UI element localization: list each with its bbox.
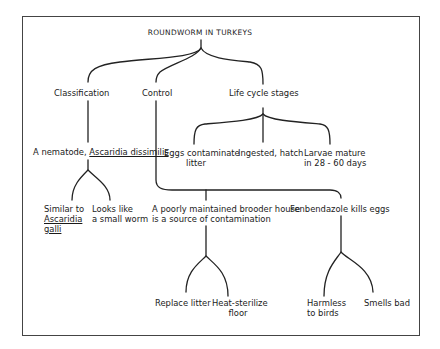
node-replace-litter: Replace litter — [155, 298, 211, 308]
node-life-cycle-stages: Life cycle stages — [229, 88, 299, 98]
heat-line2: floor — [212, 308, 264, 318]
connector-lines — [0, 0, 440, 349]
looks-line1: Looks like — [92, 204, 148, 214]
node-brooder-house: A poorly maintained brooder house is a s… — [152, 204, 300, 224]
brooder-line2: is a source of contamination — [152, 214, 300, 224]
eggs-line1: Eggs contaminate — [164, 148, 228, 158]
similar-line3: galli — [44, 224, 84, 234]
node-similar-to-galli: Similar to Ascaridia galli — [44, 204, 84, 234]
harmless-line1: Harmless — [307, 298, 346, 308]
node-control: Control — [142, 88, 172, 98]
node-fenbendazole: Fenbendazole kills eggs — [290, 204, 390, 214]
node-smells-bad: Smells bad — [364, 298, 410, 308]
node-classification: Classification — [54, 88, 109, 98]
looks-line2: a small worm — [92, 214, 148, 224]
similar-line1: Similar to — [44, 204, 84, 214]
similar-line2: Ascaridia — [44, 214, 84, 224]
diagram-title: ROUNDWORM IN TURKEYS — [140, 28, 260, 38]
nematode-prefix: A nematode, — [33, 147, 89, 157]
larvae-line1: Larvae mature — [304, 148, 366, 158]
node-larvae-mature: Larvae mature in 28 - 60 days — [304, 148, 366, 168]
node-looks-like-worm: Looks like a small worm — [92, 204, 148, 224]
brooder-line1: A poorly maintained brooder house — [152, 204, 300, 214]
node-harmless: Harmless to birds — [307, 298, 346, 318]
node-heat-sterilize: Heat-sterilize floor — [212, 298, 264, 318]
node-ingested-hatch: Ingested, hatch — [238, 148, 303, 158]
node-eggs-contaminate: Eggs contaminate litter — [164, 148, 228, 168]
eggs-line2: litter — [164, 158, 228, 168]
larvae-line2: in 28 - 60 days — [304, 158, 366, 168]
node-nematode: A nematode, Ascaridia dissimilis — [33, 147, 169, 157]
nematode-species: Ascaridia dissimilis — [89, 147, 168, 157]
harmless-line2: to birds — [307, 308, 346, 318]
heat-line1: Heat-sterilize — [212, 298, 264, 308]
